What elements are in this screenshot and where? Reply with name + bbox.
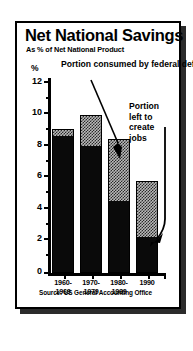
jobs-arrowhead xyxy=(150,233,163,247)
jobs-leader-line xyxy=(157,127,165,239)
deficit-arrowhead xyxy=(113,143,122,159)
source-caption: Source: US General Accounting Office xyxy=(39,289,152,296)
chart-figure: Net National Savings As % of Net Nationa… xyxy=(0,0,193,351)
plot-area: % 12 10 8 6 4 2 0 xyxy=(17,23,183,311)
annotation-arrows xyxy=(17,23,183,311)
chart-card: Net National Savings As % of Net Nationa… xyxy=(15,21,181,309)
deficit-leader-line xyxy=(91,80,118,143)
